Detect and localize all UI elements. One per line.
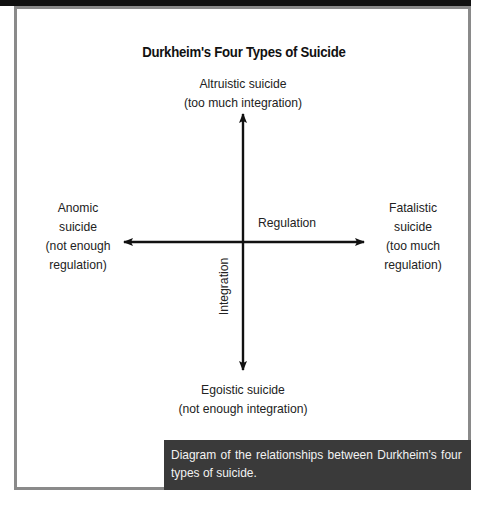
anomic-line4: regulation) — [35, 255, 121, 274]
fatalistic-line4: regulation) — [370, 255, 456, 274]
integration-axis-label: Integration — [216, 265, 231, 315]
figure-caption: Diagram of the relationships between Dur… — [164, 440, 471, 490]
anomic-line1: Anomic — [35, 198, 121, 217]
altruistic-line2: (too much integration) — [153, 93, 333, 112]
fatalistic-suicide-label: Fatalistic suicide (too much regulation) — [370, 198, 456, 274]
anomic-line3: (not enough — [35, 236, 121, 255]
egoistic-line2: (not enough integration) — [153, 399, 333, 418]
anomic-line2: suicide — [35, 217, 121, 236]
altruistic-suicide-label: Altruistic suicide (too much integration… — [153, 74, 333, 112]
egoistic-line1: Egoistic suicide — [153, 380, 333, 399]
caption-text: Diagram of the relationships between Dur… — [171, 446, 462, 482]
altruistic-line1: Altruistic suicide — [153, 74, 333, 93]
fatalistic-line3: (too much — [370, 236, 456, 255]
anomic-suicide-label: Anomic suicide (not enough regulation) — [35, 198, 121, 274]
fatalistic-line2: suicide — [370, 217, 456, 236]
egoistic-suicide-label: Egoistic suicide (not enough integration… — [153, 380, 333, 418]
regulation-axis-label: Regulation — [258, 215, 316, 230]
fatalistic-line1: Fatalistic — [370, 198, 456, 217]
